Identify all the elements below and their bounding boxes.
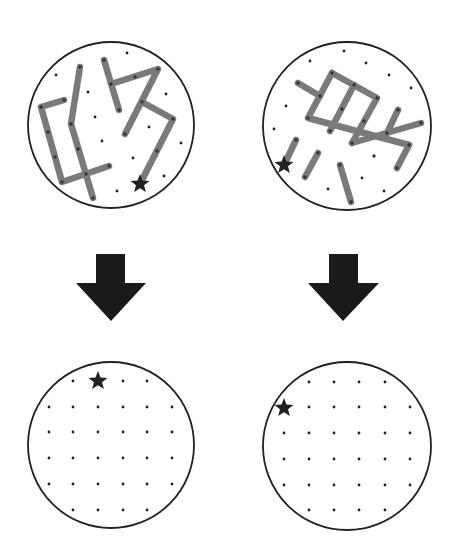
grid-dot xyxy=(283,432,286,435)
grid-dot xyxy=(409,484,412,487)
stick-node-dot xyxy=(330,71,333,74)
stick-node-dot xyxy=(316,151,319,154)
grid-dot xyxy=(388,74,391,77)
stick-node-dot xyxy=(46,130,49,133)
grid-dot xyxy=(48,431,51,434)
stick-node-dot xyxy=(306,116,309,119)
stick-node-dot xyxy=(123,132,126,135)
grid-dot xyxy=(146,380,149,383)
stick-node-dot xyxy=(385,131,388,134)
stick-node-dot xyxy=(407,143,410,146)
arrow-left-icon xyxy=(76,254,146,321)
grid-dot xyxy=(333,484,336,487)
panel-top-left xyxy=(28,42,194,208)
stick-node-dot xyxy=(294,138,297,141)
arrow-head xyxy=(76,283,146,321)
grid-dot xyxy=(94,116,97,119)
grid-dot xyxy=(97,483,100,486)
stick xyxy=(298,83,320,96)
stick-node-dot xyxy=(109,82,112,85)
stick-node-dot xyxy=(76,147,79,150)
stick-node-dot xyxy=(296,81,299,84)
grid-dot xyxy=(285,105,288,108)
grid-dot xyxy=(384,406,387,409)
stick-node-dot xyxy=(156,67,159,70)
grid-dot xyxy=(358,458,361,461)
grid-dot xyxy=(308,509,311,512)
circle-boundary xyxy=(28,362,194,528)
arrow-right-icon xyxy=(308,254,379,321)
grid-dot xyxy=(358,509,361,512)
arrow-stem xyxy=(96,254,125,284)
stick-node-dot xyxy=(84,172,87,175)
grid-dot xyxy=(358,432,361,435)
stick-node-dot xyxy=(62,98,65,101)
stick-node-dot xyxy=(372,154,375,157)
stick xyxy=(397,145,409,168)
grid-dot xyxy=(333,432,336,435)
stick-node-dot xyxy=(303,175,306,178)
grid-dot xyxy=(410,87,413,90)
grid-dot xyxy=(163,175,166,178)
grid-dot xyxy=(148,126,151,129)
stick-node-dot xyxy=(340,107,343,110)
stick xyxy=(305,153,318,177)
transform-arrows xyxy=(76,254,379,321)
grid-dot xyxy=(126,52,129,55)
stick-node-dot xyxy=(362,119,365,122)
stick xyxy=(140,102,173,184)
stick-node-dot xyxy=(117,108,120,111)
stick-node-dot xyxy=(396,108,399,111)
grid-dot xyxy=(358,381,361,384)
arrow-head xyxy=(308,283,379,321)
grid-dot xyxy=(384,432,387,435)
grid-dot xyxy=(384,484,387,487)
grid-dot xyxy=(146,431,149,434)
grid-dot xyxy=(122,483,125,486)
grid-dot xyxy=(327,188,330,191)
star-icon xyxy=(275,398,294,416)
grid-dot xyxy=(72,509,75,512)
grid-dot xyxy=(308,458,311,461)
grid-dot xyxy=(343,50,346,53)
grid-dot xyxy=(97,457,100,460)
grid-dot xyxy=(146,457,149,460)
stick-node-dot xyxy=(107,164,110,167)
grid-dot xyxy=(55,74,58,77)
stick-node-dot xyxy=(395,166,398,169)
grid-dot xyxy=(308,484,311,487)
grid-dot xyxy=(309,60,312,63)
star-icon xyxy=(89,371,108,389)
grid-dot xyxy=(409,406,412,409)
grid-dot xyxy=(361,177,364,180)
grid-dot xyxy=(72,431,75,434)
grid-dot xyxy=(97,406,100,409)
stick-node-dot xyxy=(102,58,105,61)
grid-dot xyxy=(122,406,125,409)
grid-dot xyxy=(358,484,361,487)
stick-node-dot xyxy=(140,100,143,103)
grid-dot xyxy=(358,406,361,409)
puzzle-canvas xyxy=(0,0,457,559)
stick-node-dot xyxy=(78,65,81,68)
grid-dot xyxy=(97,431,100,434)
grid-dot xyxy=(283,458,286,461)
grid-dot xyxy=(48,483,51,486)
grid-dot xyxy=(333,381,336,384)
stick-node-dot xyxy=(375,96,378,99)
stick-node-dot xyxy=(53,155,56,158)
grid-dot xyxy=(146,483,149,486)
grid-dot xyxy=(171,406,174,409)
grid-dot xyxy=(384,458,387,461)
stick-node-dot xyxy=(60,180,63,183)
grid-dot xyxy=(383,190,386,193)
stick-node-dot xyxy=(352,83,355,86)
grid-dot xyxy=(97,509,100,512)
grid-dot xyxy=(122,380,125,383)
grid-dot xyxy=(122,509,125,512)
grid-dot xyxy=(171,457,174,460)
grid-dot xyxy=(409,458,412,461)
stick-node-dot xyxy=(338,163,341,166)
grid-dot xyxy=(283,484,286,487)
grid-dot xyxy=(146,406,149,409)
